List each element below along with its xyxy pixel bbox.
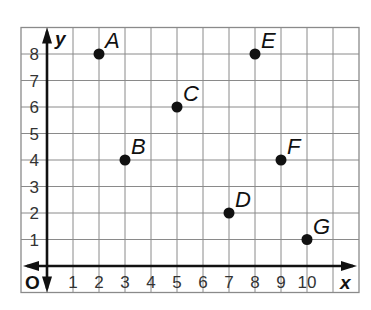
point-marker-icon bbox=[172, 102, 183, 113]
point-label: A bbox=[103, 28, 120, 53]
point-label: D bbox=[235, 187, 251, 212]
y-tick-label: 7 bbox=[30, 72, 39, 91]
data-points: ABCDEFG bbox=[94, 28, 331, 245]
x-tick-label: 5 bbox=[172, 273, 181, 292]
point-e: E bbox=[250, 28, 277, 60]
point-label: B bbox=[131, 134, 146, 159]
x-tick-label: 4 bbox=[146, 273, 155, 292]
point-marker-icon bbox=[250, 49, 261, 60]
coordinate-plane: 1234567891012345678 ABCDEFG x y O bbox=[0, 0, 371, 310]
point-b: B bbox=[120, 134, 146, 166]
y-tick-label: 1 bbox=[30, 231, 39, 250]
y-tick-label: 4 bbox=[30, 151, 39, 170]
point-d: D bbox=[224, 187, 252, 219]
x-tick-label: 1 bbox=[68, 273, 77, 292]
point-label: C bbox=[183, 81, 199, 106]
x-tick-label: 10 bbox=[298, 273, 317, 292]
y-tick-label: 6 bbox=[30, 98, 39, 117]
point-f: F bbox=[276, 134, 303, 166]
y-axis-up-arrow-icon bbox=[42, 28, 52, 44]
y-tick-label: 8 bbox=[30, 45, 39, 64]
point-g: G bbox=[302, 214, 331, 246]
x-tick-label: 8 bbox=[250, 273, 259, 292]
x-tick-label: 9 bbox=[276, 273, 285, 292]
y-tick-label: 3 bbox=[30, 178, 39, 197]
point-label: G bbox=[313, 214, 330, 239]
x-axis-left-arrow-icon bbox=[23, 261, 39, 271]
point-marker-icon bbox=[276, 155, 287, 166]
x-tick-label: 3 bbox=[120, 273, 129, 292]
point-marker-icon bbox=[94, 49, 105, 60]
x-axis-label: x bbox=[339, 272, 352, 293]
y-axis-label: y bbox=[54, 28, 67, 49]
grid-lines bbox=[21, 28, 359, 293]
y-tick-label: 2 bbox=[30, 204, 39, 223]
point-label: F bbox=[287, 134, 302, 159]
point-marker-icon bbox=[224, 208, 235, 219]
x-tick-label: 7 bbox=[224, 273, 233, 292]
origin-label: O bbox=[25, 272, 40, 293]
y-tick-label: 5 bbox=[30, 125, 39, 144]
x-axis-right-arrow-icon bbox=[341, 261, 357, 271]
point-c: C bbox=[172, 81, 200, 113]
x-tick-label: 2 bbox=[94, 273, 103, 292]
point-label: E bbox=[261, 28, 276, 53]
y-axis-down-arrow-icon bbox=[42, 277, 52, 293]
x-tick-label: 6 bbox=[198, 273, 207, 292]
point-a: A bbox=[94, 28, 120, 60]
point-marker-icon bbox=[120, 155, 131, 166]
point-marker-icon bbox=[302, 234, 313, 245]
